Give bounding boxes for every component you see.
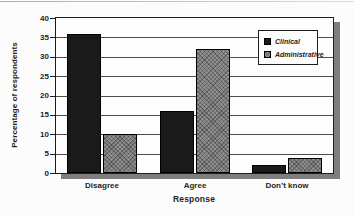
x-tick-label-don-t-know: Don’t know <box>247 181 327 190</box>
figure-canvas: Percentage of respondents 05101520253035… <box>0 0 354 216</box>
bar-administrative-don-t-know <box>288 158 322 174</box>
x-tick-label-disagree: Disagree <box>62 181 142 190</box>
y-tick-label-40: 40 <box>27 14 49 23</box>
bar-administrative-agree <box>196 49 230 173</box>
legend-label-administrative: Administrative <box>275 51 324 58</box>
page-top-rule <box>0 1 354 2</box>
legend-item-clinical: Clinical <box>264 35 317 48</box>
legend-swatch-clinical <box>264 38 271 45</box>
bar-clinical-disagree <box>67 34 101 174</box>
legend: ClinicalAdministrative <box>258 30 318 65</box>
legend-label-clinical: Clinical <box>275 38 300 45</box>
plot-area: ClinicalAdministrative <box>55 17 334 174</box>
y-tick-label-0: 0 <box>27 169 49 178</box>
y-tick-label-30: 30 <box>27 52 49 61</box>
y-tick-label-10: 10 <box>27 130 49 139</box>
legend-item-administrative: Administrative <box>264 48 317 61</box>
bar-clinical-don-t-know <box>252 165 286 173</box>
bar-administrative-disagree <box>103 134 137 173</box>
y-tick-label-5: 5 <box>27 149 49 158</box>
x-tick-label-agree: Agree <box>155 181 235 190</box>
x-axis-title: Response <box>153 194 235 204</box>
legend-items: ClinicalAdministrative <box>264 35 317 61</box>
y-axis-title: Percentage of respondents <box>10 42 19 148</box>
y-tick-label-15: 15 <box>27 110 49 119</box>
y-tick-label-25: 25 <box>27 72 49 81</box>
y-tick-label-20: 20 <box>27 91 49 100</box>
y-tick-label-35: 35 <box>27 33 49 42</box>
bar-clinical-agree <box>160 111 194 173</box>
legend-swatch-administrative <box>264 51 271 58</box>
